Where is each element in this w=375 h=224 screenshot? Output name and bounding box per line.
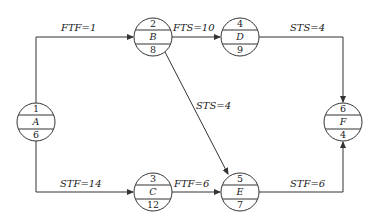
- edge-e-f: STF=6: [259, 142, 343, 192]
- edge-label-b-e: STS=4: [196, 100, 231, 111]
- node-f-duration: 4: [340, 129, 346, 140]
- node-d-duration: 9: [237, 44, 243, 55]
- edge-label-c-e: FTF=6: [173, 178, 210, 189]
- node-a-duration: 6: [33, 129, 39, 140]
- edge-b-d: FTS=10: [172, 22, 220, 37]
- edge-label-e-f: STF=6: [290, 178, 326, 189]
- edge-a-c: STF=14: [36, 141, 133, 192]
- edge-a-b: FTF=1: [36, 22, 133, 103]
- node-a-number: 1: [33, 103, 39, 114]
- node-b-duration: 8: [150, 44, 156, 55]
- edge-label-a-b: FTF=1: [60, 22, 96, 33]
- node-e-name: E: [236, 186, 244, 197]
- network-diagram: FTF=1 FTS=10 STS=4 STS=4 STF=14 FTF=6 ST…: [0, 0, 375, 224]
- node-c-number: 3: [150, 173, 156, 184]
- node-d: 4 D 9: [221, 18, 259, 57]
- node-e-duration: 7: [237, 199, 243, 210]
- edge-d-f: STS=4: [259, 22, 343, 102]
- node-f: 6 F 4: [324, 103, 362, 142]
- node-e: 5 E 7: [221, 173, 259, 212]
- edge-b-e: STS=4: [165, 52, 231, 174]
- node-f-name: F: [339, 116, 347, 127]
- node-d-name: D: [235, 31, 244, 42]
- node-e-number: 5: [237, 173, 243, 184]
- node-f-number: 6: [340, 103, 346, 114]
- edge-c-e: FTF=6: [172, 178, 220, 192]
- edge-label-b-d: FTS=10: [172, 22, 215, 33]
- node-b-number: 2: [150, 18, 156, 29]
- node-b-name: B: [149, 31, 157, 42]
- node-d-number: 4: [237, 18, 243, 29]
- node-b: 2 B 8: [134, 18, 172, 57]
- node-c-duration: 12: [147, 199, 159, 210]
- node-c: 3 C 12: [134, 173, 172, 212]
- node-a: 1 A 6: [17, 103, 55, 142]
- node-c-name: C: [149, 186, 157, 197]
- edge-label-a-c: STF=14: [60, 178, 102, 189]
- node-a-name: A: [32, 116, 40, 127]
- edge-label-d-f: STS=4: [290, 22, 325, 33]
